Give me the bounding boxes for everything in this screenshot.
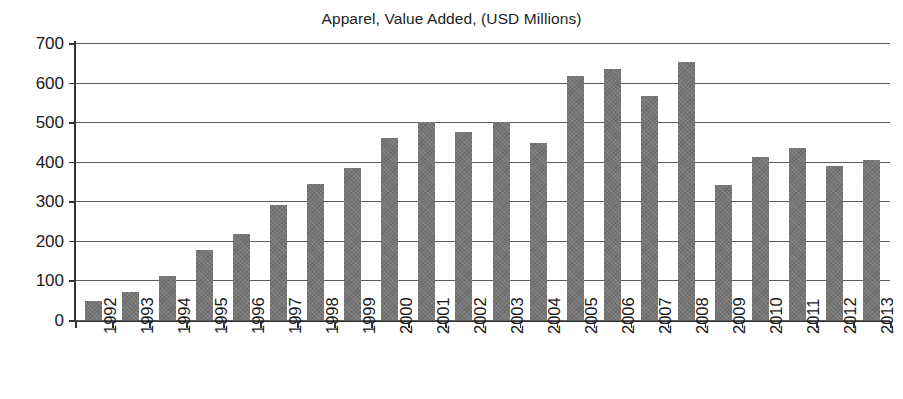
- gridline: [75, 43, 890, 44]
- y-tick-mark: [69, 162, 76, 164]
- x-tick-label: 1996: [250, 274, 267, 334]
- x-tick-label: 2012: [842, 274, 859, 334]
- x-tick-label: 1995: [213, 274, 230, 334]
- x-tick-mark: [594, 321, 596, 328]
- y-tick-mark: [69, 83, 76, 85]
- x-tick-mark: [112, 321, 114, 328]
- x-tick-label: 2001: [435, 274, 452, 334]
- x-tick-mark: [371, 321, 373, 328]
- bar: [678, 62, 695, 320]
- x-tick-label: 2011: [805, 274, 822, 334]
- bar: [641, 96, 658, 320]
- y-tick-mark: [69, 122, 76, 124]
- y-axis-labels: 0100200300400500600700: [4, 0, 64, 399]
- bar: [418, 122, 435, 320]
- bar: [604, 69, 621, 320]
- bar: [85, 301, 102, 320]
- x-tick-mark: [334, 321, 336, 328]
- bar: [122, 292, 139, 320]
- y-tick-mark: [69, 43, 76, 45]
- x-tick-label: 2006: [620, 274, 637, 334]
- bar: [863, 160, 880, 320]
- y-tick-mark: [69, 241, 76, 243]
- bar: [307, 184, 324, 320]
- bar: [159, 276, 176, 320]
- x-tick-mark: [260, 321, 262, 328]
- x-tick-mark: [445, 321, 447, 328]
- x-tick-label: 2013: [879, 274, 896, 334]
- x-tick-label: 2000: [398, 274, 415, 334]
- x-tick-label: 2007: [657, 274, 674, 334]
- x-tick-mark: [483, 321, 485, 328]
- x-tick-mark: [890, 321, 892, 328]
- x-tick-mark: [520, 321, 522, 328]
- x-tick-mark: [297, 321, 299, 328]
- y-tick-label: 400: [8, 154, 64, 171]
- x-tick-mark: [149, 321, 151, 328]
- x-tick-mark: [631, 321, 633, 328]
- y-tick-label: 200: [8, 233, 64, 250]
- gridline: [75, 122, 890, 123]
- bar: [530, 143, 547, 320]
- x-tick-label: 1998: [324, 274, 341, 334]
- y-tick-label: 700: [8, 35, 64, 52]
- x-tick-mark: [223, 321, 225, 328]
- x-tick-label: 1994: [176, 274, 193, 334]
- x-tick-label: 2008: [694, 274, 711, 334]
- x-tick-label: 1992: [102, 274, 119, 334]
- gridline: [75, 83, 890, 84]
- x-tick-label: 1993: [139, 274, 156, 334]
- y-tick-mark: [69, 201, 76, 203]
- x-tick-mark: [853, 321, 855, 328]
- x-tick-label: 2004: [546, 274, 563, 334]
- bar: [233, 234, 250, 320]
- bar: [270, 205, 287, 320]
- y-tick-label: 100: [8, 272, 64, 289]
- x-tick-mark: [75, 321, 77, 328]
- bar: [455, 132, 472, 320]
- y-tick-mark: [69, 280, 76, 282]
- x-tick-label: 2005: [583, 274, 600, 334]
- x-tick-mark: [408, 321, 410, 328]
- bar: [493, 122, 510, 320]
- y-tick-label: 600: [8, 75, 64, 92]
- y-tick-label: 500: [8, 114, 64, 131]
- x-tick-mark: [186, 321, 188, 328]
- x-tick-mark: [705, 321, 707, 328]
- x-tick-mark: [668, 321, 670, 328]
- x-tick-label: 2010: [768, 274, 785, 334]
- bar-chart: Apparel, Value Added, (USD Millions) 010…: [0, 0, 903, 399]
- chart-title: Apparel, Value Added, (USD Millions): [0, 10, 903, 28]
- x-tick-label: 1999: [361, 274, 378, 334]
- bar: [381, 138, 398, 320]
- bar: [789, 148, 806, 320]
- bar: [752, 157, 769, 320]
- y-tick-label: 0: [8, 312, 64, 329]
- x-tick-label: 2002: [472, 274, 489, 334]
- y-tick-label: 300: [8, 193, 64, 210]
- x-tick-mark: [816, 321, 818, 328]
- x-tick-mark: [742, 321, 744, 328]
- x-tick-label: 2009: [731, 274, 748, 334]
- x-tick-label: 1997: [287, 274, 304, 334]
- bar: [567, 76, 584, 320]
- x-tick-mark: [779, 321, 781, 328]
- bar: [196, 250, 213, 320]
- x-tick-label: 2003: [509, 274, 526, 334]
- bar: [344, 168, 361, 320]
- x-tick-mark: [557, 321, 559, 328]
